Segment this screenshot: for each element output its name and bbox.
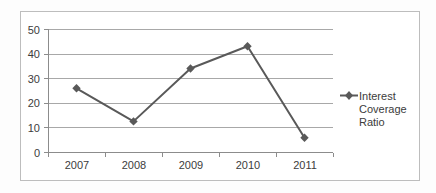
y-tick-label-0: 0: [34, 147, 40, 159]
y-tick-label-10: 10: [28, 122, 40, 134]
series-markers-group: [72, 42, 308, 142]
y-tick-label-40: 40: [28, 48, 40, 60]
y-tick-label-20: 20: [28, 97, 40, 109]
x-axis-tick-labels: 2007 2008 2009 2010 2011: [65, 159, 317, 171]
x-tick-label-2010: 2010: [236, 159, 260, 171]
y-tick-label-30: 30: [28, 73, 40, 85]
x-tick-label-2011: 2011: [293, 159, 317, 171]
x-tick-label-2007: 2007: [65, 159, 89, 171]
line-chart-plot: 50 40 30 20 10 0 2007 2008 2009 2010 201…: [0, 0, 436, 193]
chart-container: 50 40 30 20 10 0 2007 2008 2009 2010 201…: [0, 0, 436, 193]
y-axis-tick-labels: 50 40 30 20 10 0: [28, 24, 40, 159]
legend-diamond-icon: [345, 91, 353, 100]
legend-label-line-2: Coverage: [359, 103, 407, 115]
x-tick-label-2009: 2009: [179, 159, 203, 171]
legend-label-line-1: Interest: [359, 90, 396, 102]
y-tick-label-50: 50: [28, 24, 40, 36]
series-line-path: [77, 46, 305, 137]
legend: Interest Coverage Ratio: [340, 90, 407, 128]
axes-group: [44, 29, 334, 157]
series-interest-coverage-ratio: [72, 42, 308, 142]
legend-label-line-3: Ratio: [359, 116, 385, 128]
x-tick-label-2008: 2008: [122, 159, 146, 171]
data-point-2007: [72, 84, 80, 92]
